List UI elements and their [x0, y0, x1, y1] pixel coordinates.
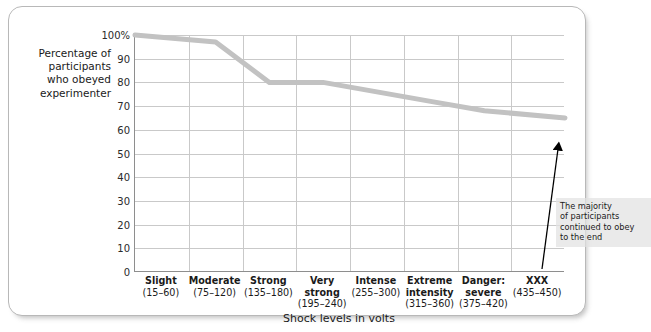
x-axis-tick-label: Extremeintensity(315–360): [403, 275, 457, 310]
y-axis-tick-label: 10: [96, 243, 130, 254]
y-axis-tick-label: 80: [96, 77, 130, 88]
x-axis-tick-label: Danger:severe(375–420): [457, 275, 511, 310]
x-axis-tick-label: Strong(135–180): [242, 275, 296, 298]
x-axis-title: Shock levels in volts: [9, 312, 609, 325]
x-axis-tick-label: Slight(15–60): [134, 275, 188, 298]
y-axis-tick-label: 100%: [96, 30, 130, 41]
x-axis-tick-line: Moderate: [189, 275, 241, 286]
x-axis-tick-line: (15–60): [143, 287, 180, 298]
x-axis-tick-line: strong: [304, 287, 339, 298]
x-axis-title-text: Shock levels in volts: [283, 312, 395, 325]
x-axis-tick-line: (435–450): [513, 287, 562, 298]
x-axis-tick-label: Moderate(75–120): [188, 275, 242, 298]
x-axis-tick-label: XXX(435–450): [510, 275, 564, 298]
y-axis-tick-label: 90: [96, 53, 130, 64]
x-axis-tick-line: (255–300): [351, 287, 400, 298]
x-axis-tick-line: Very: [310, 275, 334, 286]
figure-frame: Percentage of participants who obeyed ex…: [8, 6, 586, 316]
y-axis-tick-label: 50: [96, 148, 130, 159]
y-axis-tick-label: 20: [96, 219, 130, 230]
plot-area: The majority of participants continued t…: [134, 35, 564, 272]
y-axis-tick-label: 40: [96, 172, 130, 183]
x-axis-tick-line: (195–240): [298, 298, 347, 309]
y-axis-tick-label: 30: [96, 195, 130, 206]
x-axis-tick-line: XXX: [526, 275, 548, 286]
x-axis-tick-line: Extreme: [407, 275, 452, 286]
x-axis-tick-line: intensity: [406, 287, 454, 298]
x-axis-tick-label: Verystrong(195–240): [295, 275, 349, 310]
x-axis-tick-line: Strong: [250, 275, 287, 286]
x-axis-tick-line: severe: [465, 287, 501, 298]
x-axis-tick-line: (315–360): [405, 298, 454, 309]
annotation-arrow-icon: [534, 135, 574, 275]
y-axis-tick-labels: 100%9080706050403020100: [94, 35, 130, 272]
x-axis-tick-label: Intense(255–300): [349, 275, 403, 298]
y-axis-tick-label: 60: [96, 124, 130, 135]
obedience-line-series: [135, 35, 565, 272]
x-axis-tick-line: Intense: [356, 275, 397, 286]
x-axis-tick-line: (375–420): [459, 298, 508, 309]
x-axis-tick-line: (75–120): [193, 287, 236, 298]
x-axis-tick-line: (135–180): [244, 287, 293, 298]
y-axis-tick-label: 70: [96, 101, 130, 112]
y-axis-tick-label: 0: [96, 267, 130, 278]
x-axis-tick-line: Danger:: [462, 275, 505, 286]
x-axis-tick-line: Slight: [145, 275, 177, 286]
